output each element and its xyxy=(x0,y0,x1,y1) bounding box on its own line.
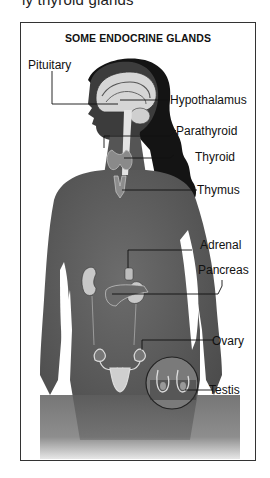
label-ovary: Ovary xyxy=(212,334,244,348)
label-pituitary: Pituitary xyxy=(28,58,71,72)
kidney-left xyxy=(82,267,96,295)
testis-inset xyxy=(146,357,198,409)
adrenal-gland xyxy=(125,268,133,280)
label-testis: Testis xyxy=(209,383,240,397)
label-pancreas: Pancreas xyxy=(198,263,249,277)
label-thymus: Thymus xyxy=(197,183,240,197)
label-hypothalamus: Hypothalamus xyxy=(170,93,247,107)
label-adrenal: Adrenal xyxy=(200,238,241,252)
label-thyroid: Thyroid xyxy=(195,150,235,164)
label-parathyroid: Parathyroid xyxy=(176,124,237,138)
